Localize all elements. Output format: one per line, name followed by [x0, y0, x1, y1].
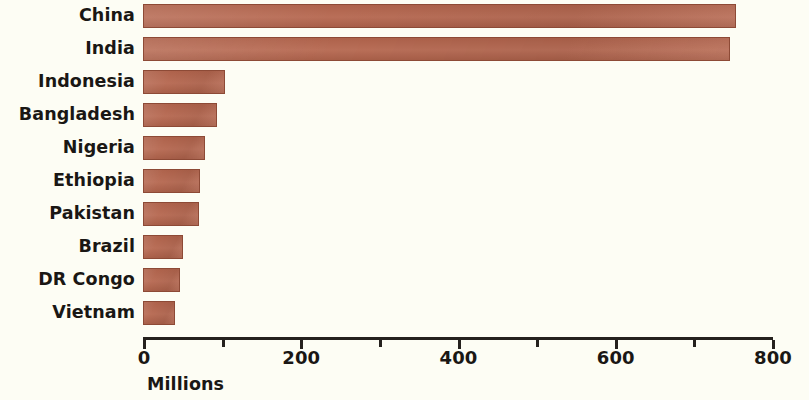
bar-chart: ChinaIndiaIndonesiaBangladeshNigeriaEthi…	[0, 0, 809, 400]
bar	[143, 103, 217, 127]
bar-fill	[143, 4, 736, 28]
x-axis-tick-label: 0	[138, 347, 151, 368]
bar-category-label: Pakistan	[49, 200, 135, 226]
bar-fill	[143, 268, 180, 292]
bar	[143, 37, 730, 61]
bar	[143, 169, 200, 193]
x-axis-tick-label: 600	[597, 347, 635, 368]
bar-row: Pakistan	[0, 200, 809, 233]
bar	[143, 136, 205, 160]
x-axis-tick-label: 800	[754, 347, 792, 368]
x-axis-tick-minor	[536, 340, 539, 347]
x-axis-tick-label: 400	[439, 347, 477, 368]
bar-fill	[143, 70, 225, 94]
bar	[143, 70, 225, 94]
bar-fill	[143, 37, 730, 61]
bar-row: DR Congo	[0, 266, 809, 299]
bar-fill	[143, 301, 175, 325]
bar	[143, 301, 175, 325]
x-axis-tick-label: 200	[282, 347, 320, 368]
bar-category-label: Indonesia	[38, 68, 135, 94]
bar-row: Nigeria	[0, 134, 809, 167]
bar	[143, 268, 180, 292]
bar-category-label: India	[85, 35, 135, 61]
bar-row: India	[0, 35, 809, 68]
bar-category-label: Bangladesh	[19, 101, 135, 127]
x-axis-tick-minor	[379, 340, 382, 347]
bar-category-label: Nigeria	[63, 134, 135, 160]
x-axis-tick-minor	[693, 340, 696, 347]
bar-row: Bangladesh	[0, 101, 809, 134]
bar-fill	[143, 235, 183, 259]
bar-row: Vietnam	[0, 299, 809, 332]
bar	[143, 235, 183, 259]
bar-row: China	[0, 2, 809, 35]
bar-fill	[143, 202, 199, 226]
bar-category-label: Brazil	[78, 233, 135, 259]
bar-row: Ethiopia	[0, 167, 809, 200]
x-axis-line	[143, 337, 773, 340]
bar-fill	[143, 136, 205, 160]
bar-row: Brazil	[0, 233, 809, 266]
x-axis-title: Millions	[147, 374, 224, 394]
bar	[143, 202, 199, 226]
bar-category-label: DR Congo	[38, 266, 135, 292]
bar	[143, 4, 736, 28]
bar-fill	[143, 169, 200, 193]
bar-category-label: Ethiopia	[53, 167, 135, 193]
bar-fill	[143, 103, 217, 127]
x-axis-tick-minor	[222, 340, 225, 347]
plot-area: ChinaIndiaIndonesiaBangladeshNigeriaEthi…	[0, 0, 809, 338]
bar-category-label: Vietnam	[52, 299, 135, 325]
bar-row: Indonesia	[0, 68, 809, 101]
bar-category-label: China	[79, 2, 135, 28]
